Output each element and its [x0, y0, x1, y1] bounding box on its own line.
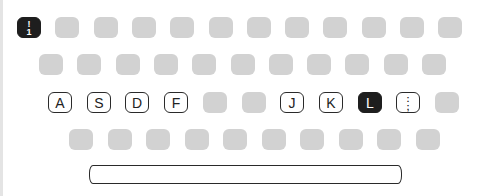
key-f[interactable]: F	[164, 92, 188, 113]
key-exclaim-1[interactable]: !1	[17, 17, 41, 38]
key-a[interactable]: A	[48, 92, 72, 113]
key-blank[interactable]	[39, 54, 63, 75]
key-bottom-glyph: 1	[26, 28, 31, 36]
key-blank[interactable]	[345, 54, 369, 75]
spacebar-key[interactable]	[89, 165, 402, 184]
key-blank[interactable]	[170, 17, 194, 38]
key-blank[interactable]	[247, 17, 271, 38]
key-blank[interactable]	[203, 92, 227, 113]
key-blank[interactable]	[223, 129, 247, 150]
key-label: L	[366, 95, 374, 111]
key-blank[interactable]	[269, 54, 293, 75]
key-label: S	[94, 95, 103, 111]
key-blank[interactable]	[300, 129, 324, 150]
key-blank[interactable]	[185, 129, 209, 150]
key-blank[interactable]	[285, 17, 309, 38]
key-blank[interactable]	[400, 17, 424, 38]
key-label: A	[55, 95, 64, 111]
key-blank[interactable]	[108, 129, 132, 150]
key-blank[interactable]	[416, 129, 440, 150]
key-blank[interactable]	[242, 92, 266, 113]
key-blank[interactable]	[146, 129, 170, 150]
key-blank[interactable]	[362, 17, 386, 38]
key-blank[interactable]	[438, 17, 462, 38]
key-blank[interactable]	[384, 54, 408, 75]
key-blank[interactable]	[339, 129, 363, 150]
key-k[interactable]: K	[319, 92, 343, 113]
key-blank[interactable]	[116, 54, 140, 75]
key-blank[interactable]	[132, 17, 156, 38]
key-label: D	[132, 95, 142, 111]
key-blank[interactable]	[69, 129, 93, 150]
key-blank[interactable]	[77, 54, 101, 75]
key-label: F	[172, 95, 181, 111]
key-blank[interactable]	[323, 17, 347, 38]
key-s[interactable]: S	[87, 92, 111, 113]
key-blank[interactable]	[94, 17, 118, 38]
key-label: J	[289, 95, 296, 111]
key-l[interactable]: L	[358, 92, 382, 113]
key-blank[interactable]	[307, 54, 331, 75]
key-blank[interactable]	[422, 54, 446, 75]
key-blank[interactable]	[154, 54, 178, 75]
key-semicolon[interactable]: :;	[396, 92, 420, 113]
key-blank[interactable]	[435, 92, 459, 113]
key-d[interactable]: D	[125, 92, 149, 113]
key-blank[interactable]	[192, 54, 216, 75]
key-blank[interactable]	[209, 17, 233, 38]
key-label: K	[326, 95, 335, 111]
key-blank[interactable]	[262, 129, 286, 150]
key-blank[interactable]	[55, 17, 79, 38]
key-j[interactable]: J	[280, 92, 304, 113]
key-bottom-glyph: ;	[407, 103, 410, 111]
left-edge-divider	[0, 0, 3, 196]
key-blank[interactable]	[377, 129, 401, 150]
key-blank[interactable]	[231, 54, 255, 75]
